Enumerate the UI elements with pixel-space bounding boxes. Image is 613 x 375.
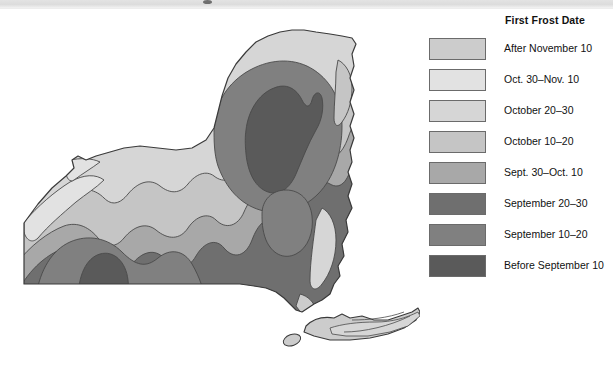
legend-swatch-september-20-30 xyxy=(429,193,486,215)
legend-swatch-after-november-10 xyxy=(429,38,486,60)
legend-label: After November 10 xyxy=(504,42,592,55)
map-container xyxy=(0,8,420,375)
legend-label: September 20–30 xyxy=(504,197,587,210)
legend-label: Before September 10 xyxy=(504,259,604,272)
long-island xyxy=(304,308,420,340)
legend-label: October 20–30 xyxy=(504,104,573,117)
legend-label: October 10–20 xyxy=(504,135,573,148)
legend-row: October 10–20 xyxy=(429,126,613,157)
legend-row: After November 10 xyxy=(429,33,613,64)
legend-row: September 10–20 xyxy=(429,219,613,250)
legend-swatch-october-20-30 xyxy=(429,100,486,122)
legend-label: September 10–20 xyxy=(504,228,587,241)
scan-top-strip xyxy=(0,0,613,8)
legend-swatch-sept-30-oct-10 xyxy=(429,162,486,184)
legend: First Frost Date After November 10 Oct. … xyxy=(429,14,613,281)
legend-row: Before September 10 xyxy=(429,250,613,281)
staten-island xyxy=(282,332,303,348)
legend-row: Sept. 30–Oct. 10 xyxy=(429,157,613,188)
legend-swatch-september-10-20 xyxy=(429,224,486,246)
legend-row: Oct. 30–Nov. 10 xyxy=(429,64,613,95)
scan-artifact-mark xyxy=(203,0,212,4)
legend-label: Sept. 30–Oct. 10 xyxy=(504,166,583,179)
legend-swatch-october-10-20 xyxy=(429,131,486,153)
legend-label: Oct. 30–Nov. 10 xyxy=(504,73,579,86)
legend-row: September 20–30 xyxy=(429,188,613,219)
legend-swatch-oct-30-nov-10 xyxy=(429,69,486,91)
legend-title: First Frost Date xyxy=(505,14,613,27)
legend-swatch-before-september-10 xyxy=(429,255,486,277)
band-sept-10-20-catskill xyxy=(262,190,312,256)
legend-row: October 20–30 xyxy=(429,95,613,126)
new-york-map xyxy=(0,8,420,375)
